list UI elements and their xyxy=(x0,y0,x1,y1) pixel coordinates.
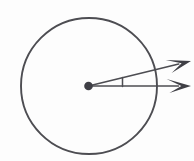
figure-canvas: A circle drawn with a thin dark outline;… xyxy=(0,0,194,161)
center-point-dot xyxy=(84,82,93,91)
upper-ray-line xyxy=(89,64,179,86)
geometry-diagram xyxy=(0,0,194,161)
